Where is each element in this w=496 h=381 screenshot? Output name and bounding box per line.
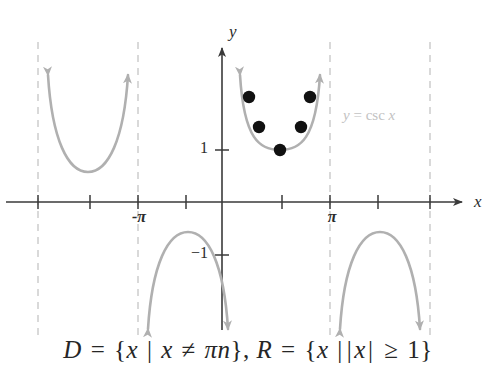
branch-right-lower — [340, 232, 420, 329]
x-axis-label: x — [474, 192, 482, 212]
equation-comma: , — [243, 336, 257, 363]
x-axis — [6, 195, 462, 209]
marked-point — [304, 91, 316, 103]
range-geq-sign: ≥ — [375, 336, 407, 363]
range-abs-close: | — [366, 336, 376, 363]
domain-equals: = — [82, 336, 114, 363]
range-such-that-bar: | — [329, 336, 345, 363]
domain-range-equation: D = {x | x ≠ πn}, R = {x ||x| ≥ 1} — [0, 336, 496, 364]
domain-variable: x — [127, 336, 139, 363]
curve-equation-label: y = csc x — [343, 107, 395, 124]
curve-label-argument: x — [389, 107, 396, 123]
plot-canvas — [0, 0, 496, 381]
range-symbol: R — [257, 336, 273, 363]
range-variable-2: x — [354, 336, 366, 363]
domain-such-that-bar: | — [138, 336, 161, 363]
y-tick-label-neg-one: −1 — [178, 244, 208, 262]
x-tick-label-neg-pi: -π — [123, 208, 155, 226]
marked-points — [243, 91, 316, 156]
marked-point — [295, 121, 307, 133]
curve-label-lhs: y — [343, 107, 350, 123]
branch-left-upper — [48, 75, 128, 172]
y-axis-label: y — [229, 22, 237, 42]
range-abs-open: | — [345, 336, 355, 363]
range-variable: x — [317, 336, 329, 363]
domain-not-equal-sign: ≠ — [173, 336, 205, 363]
curve-label-equals: = — [350, 107, 366, 123]
domain-variable-2: x — [161, 336, 173, 363]
domain-excluded-value: πn — [204, 336, 230, 363]
domain-symbol: D — [63, 336, 82, 363]
marked-point — [243, 91, 255, 103]
y-tick-label-one: 1 — [186, 139, 208, 157]
marked-point — [253, 121, 265, 133]
branch-middle-upper — [240, 75, 320, 150]
domain-close-brace: } — [231, 336, 244, 363]
curve-label-function: csc — [366, 107, 389, 123]
range-open-brace: { — [304, 336, 317, 363]
range-equals: = — [272, 336, 304, 363]
domain-open-brace: { — [114, 336, 127, 363]
range-close-brace: } — [420, 336, 433, 363]
x-tick-label-pi: π — [316, 208, 348, 226]
range-bound-value: 1 — [407, 336, 420, 363]
marked-point — [274, 144, 286, 156]
csc-function-graph-figure: x y -π π 1 −1 y = csc x D = {x | x ≠ πn}… — [0, 0, 496, 381]
asymptote-lines — [38, 42, 430, 336]
